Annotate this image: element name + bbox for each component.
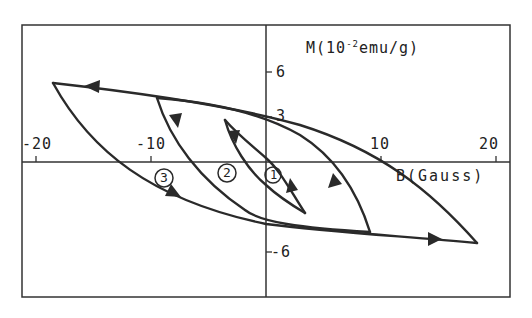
x-tick-label: 20 — [479, 137, 499, 152]
loop2-label: 2 — [223, 166, 231, 179]
y-axis-label: M(10-2emu/g) — [306, 40, 419, 56]
loop2-rising-branch — [157, 98, 370, 232]
hysteresis-chart — [0, 0, 532, 318]
arrow-icon — [84, 80, 100, 93]
arrow-icon — [428, 232, 442, 246]
loop1-label: 1 — [270, 169, 277, 181]
y-tick-label: 3 — [276, 109, 286, 124]
loop3-label: 3 — [160, 171, 168, 184]
x-tick-label: -10 — [136, 137, 166, 152]
x-tick-label: -20 — [22, 137, 52, 152]
arrow-icon — [169, 113, 182, 128]
x-axis-label: B(Gauss) — [396, 169, 484, 184]
y-tick-label: -6 — [271, 245, 291, 260]
y-tick-label: 6 — [276, 65, 286, 80]
arrow-icon — [328, 173, 342, 188]
x-tick-label: 10 — [370, 137, 390, 152]
direction-arrows — [84, 80, 442, 246]
